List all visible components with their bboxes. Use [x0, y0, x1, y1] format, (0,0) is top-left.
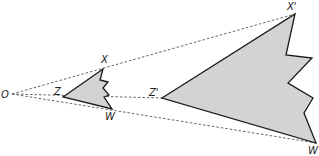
label-center-o: O: [1, 89, 9, 100]
label-z-prime: Z': [148, 87, 159, 98]
dilation-diagram: O X Z W X' Z' W': [0, 0, 319, 156]
label-z: Z: [53, 86, 62, 97]
label-x-prime: X': [286, 1, 297, 12]
label-w: W: [105, 111, 116, 122]
image-shape-x-prime-z-prime-w-prime: [162, 14, 316, 143]
label-x: X: [100, 54, 109, 65]
label-w-prime: W': [308, 145, 319, 156]
